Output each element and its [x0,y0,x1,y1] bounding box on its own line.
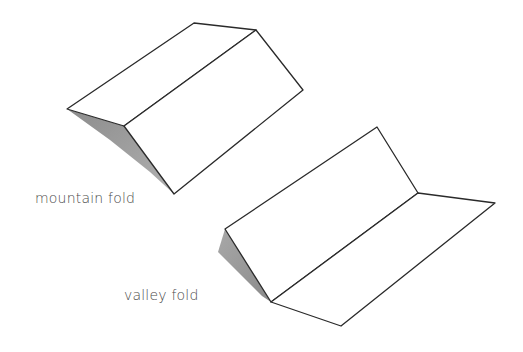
mountain-fold-illustration [67,23,303,194]
mountain-fold-label: mountain fold [35,190,135,206]
valley-fold-illustration [218,127,495,326]
fold-illustrations [0,0,523,352]
fold-diagram: mountain fold valley fold [0,0,523,352]
valley-fold-label: valley fold [124,287,198,303]
